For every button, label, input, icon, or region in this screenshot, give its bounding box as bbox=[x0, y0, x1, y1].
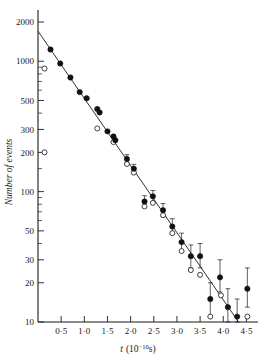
data-point bbox=[179, 249, 184, 254]
data-point bbox=[188, 253, 193, 258]
data-point bbox=[150, 194, 155, 199]
data-point bbox=[142, 199, 147, 204]
data-point bbox=[42, 150, 47, 155]
x-tick-label: 2·5 bbox=[148, 326, 160, 336]
data-point bbox=[48, 47, 53, 52]
y-tick-label: 50 bbox=[25, 226, 35, 236]
data-point bbox=[188, 268, 193, 273]
x-tick-label: 4·0 bbox=[217, 326, 229, 336]
data-point bbox=[124, 156, 129, 161]
data-point bbox=[245, 314, 250, 319]
data-point bbox=[150, 200, 155, 205]
data-point bbox=[197, 253, 202, 258]
x-axis-title: t(10−10s) bbox=[120, 343, 155, 356]
data-point bbox=[245, 286, 250, 291]
y-tick-label: 20 bbox=[25, 278, 35, 288]
x-tick-label: 0·5 bbox=[55, 326, 67, 336]
y-tick-label: 100 bbox=[21, 187, 35, 197]
data-point bbox=[131, 166, 136, 171]
y-axis-tick-labels: 1020305010020030050010002000 bbox=[16, 17, 35, 327]
data-point bbox=[68, 75, 73, 80]
data-point bbox=[217, 275, 222, 280]
data-point bbox=[95, 126, 100, 131]
data-point bbox=[234, 314, 239, 319]
x-tick-label: 4·5 bbox=[240, 326, 252, 336]
y-tick-label: 2000 bbox=[16, 17, 35, 27]
y-tick-label: 1000 bbox=[16, 56, 35, 66]
data-point bbox=[113, 137, 118, 142]
y-tick-label: 300 bbox=[21, 125, 35, 135]
data-point bbox=[105, 129, 110, 134]
chart-canvas: 1020305010020030050010002000 0·51·01·52·… bbox=[0, 0, 265, 362]
data-point bbox=[77, 89, 82, 94]
data-point bbox=[42, 66, 47, 71]
x-tick-label: 1·0 bbox=[78, 326, 90, 336]
data-point bbox=[142, 204, 147, 209]
data-point bbox=[160, 208, 165, 213]
data-point bbox=[225, 304, 230, 309]
y-tick-label: 10 bbox=[25, 317, 35, 327]
data-point bbox=[218, 293, 223, 298]
series-filled-circles bbox=[48, 47, 250, 319]
x-axis-ticks bbox=[61, 316, 246, 322]
data-point bbox=[208, 296, 213, 301]
y-axis-title: Number of events bbox=[4, 138, 14, 206]
data-point bbox=[208, 314, 213, 319]
y-tick-label: 200 bbox=[21, 148, 35, 158]
y-axis-minor-ticks bbox=[38, 67, 42, 243]
y-tick-label: 30 bbox=[25, 255, 35, 265]
error-bars bbox=[125, 155, 250, 322]
data-point bbox=[170, 224, 175, 229]
y-tick-label: 500 bbox=[21, 96, 35, 106]
x-tick-label: 3·0 bbox=[171, 326, 183, 336]
data-point bbox=[58, 61, 63, 66]
data-point bbox=[124, 161, 129, 166]
data-point bbox=[170, 231, 175, 236]
data-point bbox=[161, 213, 166, 218]
x-tick-label: 3·5 bbox=[194, 326, 206, 336]
decay-curve-figure: 1020305010020030050010002000 0·51·01·52·… bbox=[0, 0, 265, 362]
series-open-circles bbox=[42, 66, 250, 319]
data-point bbox=[97, 110, 102, 115]
x-tick-label: 1·5 bbox=[101, 326, 113, 336]
fit-line bbox=[38, 31, 239, 322]
x-axis-tick-labels: 0·51·01·52·02·53·03·54·04·5 bbox=[55, 326, 253, 336]
data-point bbox=[179, 239, 184, 244]
data-point bbox=[84, 96, 89, 101]
data-point bbox=[198, 272, 203, 277]
x-tick-label: 2·0 bbox=[125, 326, 137, 336]
